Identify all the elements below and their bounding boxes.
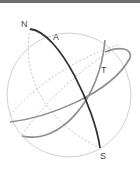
south-label: S [100, 151, 106, 161]
celestial-sphere-diagram: N S A T [0, 0, 140, 173]
t-label: T [101, 65, 107, 75]
a-label: A [53, 32, 59, 42]
great-circle-t [10, 49, 130, 122]
great-circle-second [22, 40, 105, 137]
sphere-outline [7, 33, 131, 157]
north-label: N [21, 19, 28, 29]
great-circle-a [30, 29, 100, 148]
